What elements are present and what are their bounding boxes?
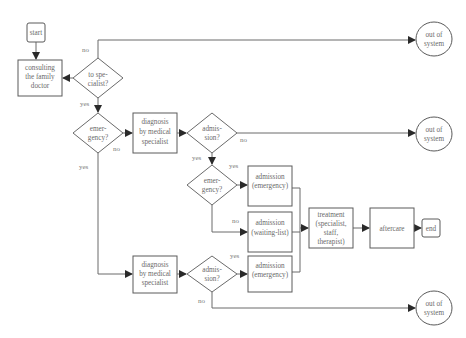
node-start-label: start xyxy=(30,29,42,37)
decision-emergency1-line-2: gency? xyxy=(88,134,108,142)
node-adm-waiting-line-2: (waiting-list) xyxy=(251,229,289,237)
node-treatment-line-3: staff, xyxy=(324,229,339,237)
node-adm-emergency1-line-2: (emergency) xyxy=(252,182,289,190)
decision-admission1-line-1: admis- xyxy=(202,125,222,133)
node-admission-waiting-list: admission (waiting-list) xyxy=(248,212,292,252)
node-adm-emergency2-line-2: (emergency) xyxy=(252,271,289,279)
edge-emergency2-no-to-adm-waiting xyxy=(212,205,247,232)
decision-to-specialist-line-1: to spe- xyxy=(88,71,108,79)
node-diagnosis2-line-1: diagnosis xyxy=(141,261,168,269)
node-treatment-line-2: (specialist, xyxy=(316,220,347,228)
node-out3-line-2: system xyxy=(424,309,444,317)
decision-to-specialist: to spe- cialist? xyxy=(73,58,123,98)
edge-emergency1-yes-to-diagnosis2 xyxy=(98,153,132,274)
node-consulting-line-3: doctor xyxy=(31,82,50,90)
edge-specialist-no-to-out1 xyxy=(98,40,415,58)
node-diagnosis2-line-3: specialist xyxy=(142,279,169,287)
node-out1-line-2: system xyxy=(424,40,444,48)
node-adm-waiting-line-1: admission xyxy=(255,219,285,227)
decision-admission-1: admis- sion? xyxy=(187,113,237,153)
node-end-label: end xyxy=(426,225,437,233)
label-admission2-yes: yes xyxy=(230,252,240,260)
label-specialist-yes: yes xyxy=(80,100,90,108)
node-out2-line-2: system xyxy=(424,135,444,143)
label-specialist-no: no xyxy=(82,46,90,54)
decision-emergency-2: emer- gency? xyxy=(187,165,237,205)
decision-to-specialist-line-2: cialist? xyxy=(88,80,108,88)
node-out3-line-1: out of xyxy=(426,300,444,308)
label-emergency2-yes: yes xyxy=(229,162,239,170)
label-emergency1-no: no xyxy=(113,145,121,153)
node-adm-emergency1-line-1: admission xyxy=(255,173,285,181)
node-treatment-line-1: treatment xyxy=(317,211,344,219)
label-admission1-no: no xyxy=(240,136,248,144)
node-consulting-line-2: the family xyxy=(25,73,55,81)
node-treatment-line-4: therapist) xyxy=(317,238,345,246)
node-start: start xyxy=(27,23,45,42)
node-diagnosis-2: diagnosis by medical specialist xyxy=(133,256,177,293)
decision-admission-2: admis- sion? xyxy=(187,256,237,292)
node-out2-line-1: out of xyxy=(426,126,444,134)
decision-emergency2-line-1: emer- xyxy=(204,177,221,185)
node-aftercare-label: aftercare xyxy=(379,225,404,233)
node-diagnosis-1: diagnosis by medical specialist xyxy=(133,113,177,153)
node-diagnosis2-line-2: by medical xyxy=(139,270,171,278)
node-consulting-line-1: consulting xyxy=(25,64,55,72)
node-admission-emergency-2: admission (emergency) xyxy=(248,256,292,292)
decision-emergency2-line-2: gency? xyxy=(202,186,222,194)
decision-admission2-line-1: admis- xyxy=(202,266,222,274)
decision-admission2-line-2: sion? xyxy=(204,275,219,283)
flowchart-canvas: no yes no yes no yes yes no yes no start… xyxy=(0,0,466,338)
decision-admission1-line-2: sion? xyxy=(204,134,219,142)
node-consulting-family-doctor: consulting the family doctor xyxy=(18,60,62,96)
node-end: end xyxy=(422,219,440,237)
label-emergency1-yes: yes xyxy=(79,163,89,171)
node-treatment: treatment (specialist, staff, therapist) xyxy=(309,208,353,248)
node-adm-emergency2-line-1: admission xyxy=(255,262,285,270)
decision-emergency1-line-1: emer- xyxy=(90,125,107,133)
node-diagnosis1-line-1: diagnosis xyxy=(141,118,168,126)
label-admission1-yes: yes xyxy=(192,154,202,162)
node-out-of-system-3: out of system xyxy=(416,291,452,325)
node-out-of-system-1: out of system xyxy=(416,22,452,56)
node-aftercare: aftercare xyxy=(370,208,414,248)
node-diagnosis1-line-2: by medical xyxy=(139,128,171,136)
label-admission2-no: no xyxy=(198,297,206,305)
node-out1-line-1: out of xyxy=(426,31,444,39)
label-emergency2-no: no xyxy=(232,217,240,225)
node-diagnosis1-line-3: specialist xyxy=(142,138,169,146)
node-admission-emergency-1: admission (emergency) xyxy=(248,166,292,206)
edge-admissions-collector xyxy=(292,188,300,272)
edge-admission2-no-to-out3 xyxy=(212,292,415,308)
node-out-of-system-2: out of system xyxy=(416,117,452,151)
